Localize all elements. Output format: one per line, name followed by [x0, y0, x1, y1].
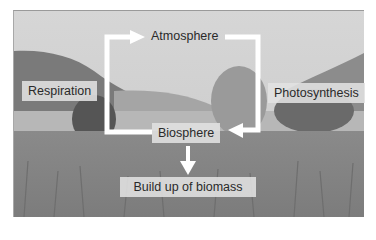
atmosphere-label: Atmosphere — [145, 26, 224, 46]
photosynthesis-arrowhead — [228, 123, 243, 138]
respiration-arrowhead — [130, 30, 145, 44]
photosynthesis-arrow — [225, 37, 258, 130]
biomass-label: Build up of biomass — [120, 177, 256, 197]
respiration-arrow — [107, 37, 152, 132]
photosynthesis-label: Photosynthesis — [268, 83, 365, 103]
biomass-arrowhead — [180, 161, 196, 175]
biosphere-label: Biosphere — [152, 123, 220, 143]
respiration-label: Respiration — [22, 81, 97, 101]
